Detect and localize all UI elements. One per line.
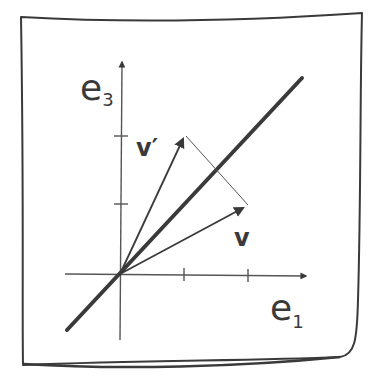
e1-axis (65, 274, 306, 276)
reflection-line (67, 78, 302, 330)
vector-v-label: v (234, 224, 250, 252)
e1-label: e1 (270, 287, 304, 332)
vector-v-prime-label: v′ (136, 134, 158, 162)
e3-label: e3 (80, 67, 114, 110)
vector-v (120, 208, 243, 274)
diagram-canvas: e3 e1 v′ v (0, 0, 378, 387)
e3-axis (120, 62, 122, 340)
sketch-frame (21, 13, 362, 365)
